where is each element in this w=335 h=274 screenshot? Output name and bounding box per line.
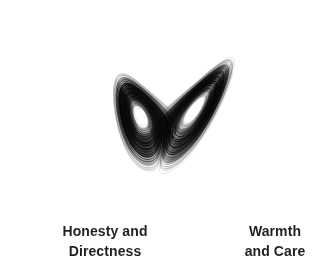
label-warmth-and-care: Warmth and Care (206, 221, 335, 261)
label-honesty-and-directness: Honesty and Directness (22, 221, 188, 261)
lorenz-attractor-figure: Honesty and Directness Warmth and Care (0, 0, 335, 274)
